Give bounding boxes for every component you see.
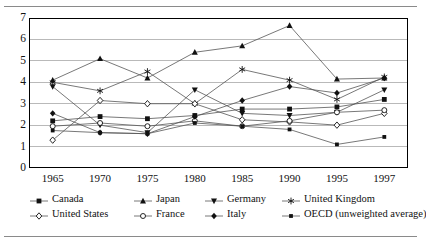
series-line	[53, 26, 385, 81]
data-point-marker	[239, 117, 245, 123]
legend-label: Italy	[227, 208, 246, 220]
bottom-divider-rule	[4, 236, 417, 237]
series-japan	[50, 22, 388, 82]
legend-marker-icon	[133, 193, 153, 205]
legend-row-2: United StatesFranceItalyOECD (unweighted…	[29, 206, 408, 221]
data-point-marker	[144, 75, 150, 81]
x-tick-label: 1997	[362, 173, 406, 184]
legend-label: United Kingdom	[304, 193, 375, 205]
data-point-marker	[98, 131, 102, 135]
y-tick-label: 4	[4, 76, 26, 88]
data-point-marker	[382, 108, 387, 113]
data-point-marker	[98, 121, 103, 126]
y-tick-label: 6	[4, 33, 26, 45]
data-point-marker	[146, 132, 150, 136]
x-tick-label: 1970	[78, 173, 122, 184]
data-point-marker	[334, 90, 340, 96]
legend-marker-icon	[281, 193, 301, 205]
data-point-marker	[334, 122, 340, 128]
data-point-marker	[145, 124, 150, 129]
legend-label: OECD (unweighted average)	[304, 208, 426, 220]
data-point-marker	[97, 97, 103, 103]
y-tick-label: 1	[4, 141, 26, 153]
data-point-marker	[335, 143, 339, 147]
data-point-marker	[141, 213, 146, 218]
data-point-marker	[193, 121, 197, 125]
data-point-marker	[382, 97, 387, 102]
data-point-marker	[50, 118, 55, 123]
data-point-marker	[240, 124, 244, 128]
data-point-marker	[289, 214, 293, 218]
x-tick-label: 1990	[268, 173, 312, 184]
data-point-marker	[381, 87, 387, 93]
data-point-marker	[97, 56, 103, 62]
legend-row-1: CanadaJapanGermanyUnited Kingdom	[29, 191, 408, 206]
legend-item[interactable]: Germany	[204, 191, 266, 206]
data-point-marker	[335, 105, 340, 110]
legend-item[interactable]: OECD (unweighted average)	[281, 206, 426, 221]
data-point-marker	[36, 212, 42, 218]
top-divider-rule	[4, 6, 417, 7]
legend-label: Japan	[156, 193, 180, 205]
legend-marker-icon	[29, 193, 49, 205]
legend-marker-icon	[204, 193, 224, 205]
data-point-marker	[145, 101, 151, 107]
y-tick-label: 0	[4, 162, 26, 174]
chart-legend: CanadaJapanGermanyUnited Kingdom United …	[29, 191, 408, 225]
data-point-marker	[288, 128, 292, 132]
data-point-marker	[239, 43, 245, 49]
data-point-marker	[287, 22, 293, 28]
data-point-marker	[192, 101, 198, 107]
data-point-marker	[334, 110, 339, 115]
legend-item[interactable]: France	[133, 206, 185, 221]
x-tick-label: 1995	[315, 173, 359, 184]
data-point-marker	[240, 107, 245, 112]
legend-label: France	[156, 208, 185, 220]
x-tick-label: 1980	[173, 173, 217, 184]
legend-marker-icon	[281, 208, 301, 220]
y-tick-label: 5	[4, 55, 26, 67]
legend-marker-icon	[133, 208, 153, 220]
legend-item[interactable]: United Kingdom	[281, 191, 375, 206]
chart-area: 01234567 1965197019751980198519901995199…	[0, 10, 421, 190]
legend-item[interactable]: Canada	[29, 191, 84, 206]
data-point-marker	[287, 107, 292, 112]
series-plot-layer	[29, 18, 408, 168]
legend-item[interactable]: United States	[29, 206, 108, 221]
data-point-marker	[145, 116, 150, 121]
y-tick-label: 2	[4, 119, 26, 131]
data-point-marker	[287, 77, 293, 84]
x-tick-label: 1965	[31, 173, 75, 184]
legend-label: Germany	[227, 193, 266, 205]
data-point-marker	[37, 198, 42, 203]
x-tick-label: 1975	[125, 173, 169, 184]
data-point-marker	[287, 118, 292, 123]
legend-label: United States	[52, 208, 108, 220]
y-tick-label: 3	[4, 98, 26, 110]
data-point-marker	[98, 114, 103, 119]
data-point-marker	[50, 137, 56, 143]
data-point-marker	[287, 113, 293, 119]
legend-marker-icon	[29, 208, 49, 220]
data-point-marker	[144, 68, 150, 75]
data-point-marker	[239, 97, 245, 103]
legend-item[interactable]: Italy	[204, 206, 246, 221]
y-tick-label: 7	[4, 12, 26, 24]
x-tick-label: 1985	[220, 173, 264, 184]
data-point-marker	[287, 83, 293, 89]
data-point-marker	[382, 135, 386, 139]
legend-marker-icon	[204, 208, 224, 220]
data-point-marker	[334, 96, 340, 103]
data-point-marker	[211, 212, 217, 218]
legend-label: Canada	[52, 193, 84, 205]
legend-item[interactable]: Japan	[133, 191, 180, 206]
data-point-marker	[50, 110, 56, 116]
data-point-marker	[239, 66, 245, 73]
data-point-marker	[51, 129, 55, 133]
data-point-marker	[50, 124, 55, 129]
